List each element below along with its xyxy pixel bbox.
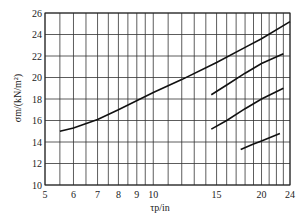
- y-tick-label: 12: [32, 158, 42, 169]
- y-tick-label: 16: [32, 115, 42, 126]
- y-tick-label: 18: [32, 94, 42, 105]
- y-tick-label: 22: [32, 51, 42, 62]
- curve-4: [241, 133, 280, 149]
- y-tick-label: 24: [32, 29, 42, 40]
- y-tick-labels: 101214161820222426: [32, 8, 42, 191]
- y-axis-label: σm/(kN/m²): [12, 74, 24, 122]
- y-tick-label: 10: [32, 180, 42, 191]
- y-tick-label: 14: [32, 137, 42, 148]
- x-tick-label: 7: [95, 189, 100, 200]
- x-axis-label: τp/in: [150, 202, 170, 213]
- y-tick-label: 20: [32, 72, 42, 83]
- curves: [60, 22, 290, 150]
- x-tick-label: 9: [134, 189, 139, 200]
- x-tick-label: 10: [148, 189, 158, 200]
- x-tick-labels: 5678910152024: [43, 189, 296, 200]
- x-tick-label: 20: [257, 189, 267, 200]
- chart: 101214161820222426 5678910152024 τp/in σ…: [0, 0, 300, 219]
- y-tick-label: 26: [32, 8, 42, 19]
- x-tick-label: 24: [285, 189, 295, 200]
- x-tick-label: 5: [43, 189, 48, 200]
- grid: [45, 13, 290, 185]
- curve-1: [60, 22, 290, 132]
- x-tick-label: 15: [212, 189, 222, 200]
- x-tick-label: 6: [71, 189, 76, 200]
- x-tick-label: 8: [116, 189, 121, 200]
- curve-3: [211, 88, 283, 129]
